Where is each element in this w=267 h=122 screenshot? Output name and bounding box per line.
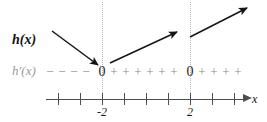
sign-mark: + xyxy=(168,62,180,82)
sign-zero: 0 xyxy=(96,62,108,82)
axis-tick xyxy=(80,93,81,105)
number-line-arrowhead-icon xyxy=(243,94,252,102)
axis-tick-label: -2 xyxy=(90,106,114,118)
sign-mark: + xyxy=(132,62,144,82)
axis-tick xyxy=(234,93,235,105)
sign-mark: − xyxy=(68,62,80,82)
derivative-sign-row: −−−−0++++++0++++ xyxy=(0,62,267,82)
sign-mark: − xyxy=(56,62,68,82)
axis-tick xyxy=(212,93,213,105)
number-line xyxy=(46,99,244,100)
sign-mark: + xyxy=(108,62,120,82)
sign-mark: + xyxy=(232,62,244,82)
slope-arrows-overlay xyxy=(0,0,267,122)
sign-mark: + xyxy=(196,62,208,82)
axis-tick xyxy=(168,93,169,105)
increasing-arrow-middle xyxy=(110,32,177,63)
axis-tick xyxy=(124,93,125,105)
sign-zero: 0 xyxy=(184,62,196,82)
sign-mark: − xyxy=(44,62,56,82)
sign-mark: + xyxy=(144,62,156,82)
axis-label-x: x xyxy=(252,93,257,105)
axis-tick xyxy=(190,93,191,105)
axis-tick xyxy=(58,93,59,105)
sign-mark: + xyxy=(220,62,232,82)
axis-tick xyxy=(102,93,103,105)
function-label: h(x) xyxy=(12,33,36,47)
sign-mark: + xyxy=(208,62,220,82)
sign-mark: − xyxy=(80,62,92,82)
axis-tick xyxy=(146,93,147,105)
axis-tick-label: 2 xyxy=(178,106,202,118)
decreasing-arrow xyxy=(52,31,98,65)
sign-chart-figure: h(x) h′(x) x −−−−0++++++0++++ -22 xyxy=(0,0,267,122)
sign-mark: + xyxy=(120,62,132,82)
increasing-arrow-right xyxy=(190,8,247,37)
sign-mark: + xyxy=(156,62,168,82)
